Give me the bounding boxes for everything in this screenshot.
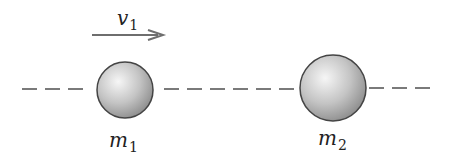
velocity-label: v1 <box>117 8 138 32</box>
mass-1-symbol: m <box>109 128 128 152</box>
mass-1-label: m1 <box>109 130 138 154</box>
velocity-symbol: v <box>117 6 128 30</box>
mass-1-ball <box>97 62 153 118</box>
mass-2-subscript: 2 <box>338 137 347 153</box>
mass-1-subscript: 1 <box>129 139 138 155</box>
velocity-subscript: 1 <box>129 17 138 33</box>
mass-2-symbol: m <box>318 126 337 150</box>
diagram-canvas <box>0 0 455 166</box>
mass-2-ball <box>300 55 366 121</box>
axis-dashed-line <box>22 88 430 89</box>
mass-2-label: m2 <box>318 128 347 152</box>
